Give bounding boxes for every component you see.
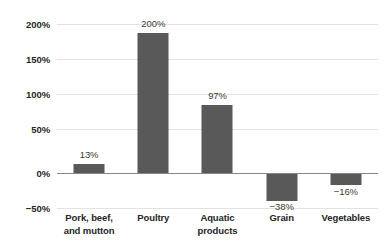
bar[interactable]	[74, 164, 105, 173]
y-tick-label-50: 50%	[2, 124, 50, 135]
plot-area: 13% 200% 97% −38% −16%	[57, 24, 378, 208]
category-label-aquatic-products: Aquatic products	[185, 212, 249, 237]
category-label-pork-beef-mutton: Pork, beef, and mutton	[57, 212, 121, 237]
bar-group-poultry[interactable]: 200%	[121, 24, 185, 208]
category-label-vegetables: Vegetables	[314, 212, 378, 225]
bar-value-label: 97%	[208, 90, 227, 101]
category-label-grain: Grain	[250, 212, 314, 225]
bar-group-pork-beef-mutton[interactable]: 13%	[57, 24, 121, 208]
bar-group-grain[interactable]: −38%	[250, 24, 314, 208]
bar-value-label: −16%	[334, 186, 358, 197]
bar[interactable]	[202, 105, 233, 173]
bar-value-label: −38%	[270, 201, 294, 212]
bar-value-label: 200%	[141, 18, 165, 29]
bar-value-label: 13%	[80, 149, 99, 160]
bar-group-aquatic-products[interactable]: 97%	[185, 24, 249, 208]
y-tick-label-100: 100%	[2, 89, 50, 100]
y-tick-label-150: 150%	[2, 54, 50, 65]
bar[interactable]	[266, 174, 297, 201]
category-label-poultry: Poultry	[121, 212, 185, 225]
gridline-neg50	[57, 208, 378, 209]
bar[interactable]	[138, 33, 169, 173]
y-tick-label-0: 0%	[2, 168, 50, 179]
bar-group-vegetables[interactable]: −16%	[314, 24, 378, 208]
bar[interactable]	[330, 174, 361, 185]
y-tick-label-200: 200%	[2, 19, 50, 30]
bar-series: 13% 200% 97% −38% −16%	[57, 24, 378, 208]
y-tick-label-neg50: −50%	[2, 203, 50, 214]
bar-chart: 200% 150% 100% 50% 0% −50% 13% 200%	[0, 0, 383, 243]
